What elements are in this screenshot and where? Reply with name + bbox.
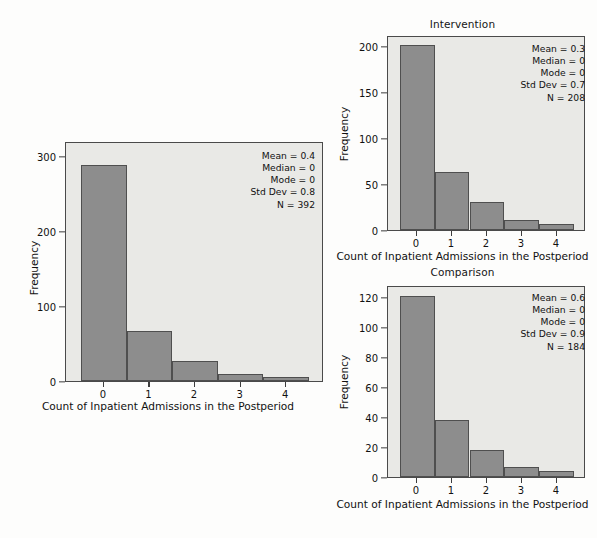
stats-annotation-intervention: Mean = 0.3 Median = 0 Mode = 0 Std Dev =… — [520, 43, 585, 104]
bar — [127, 331, 173, 381]
chart-title-comparison: Comparison — [330, 266, 595, 278]
histogram-comparison: Comparison Frequency 0204060801001200123… — [330, 266, 595, 516]
histogram-intervention: Intervention Frequency 05010015020001234… — [330, 18, 595, 268]
stat-median: Median = 0 — [520, 304, 585, 316]
y-tick-label: 100 — [330, 134, 378, 145]
y-tick-label: 150 — [330, 88, 378, 99]
x-tick-mark — [556, 478, 557, 483]
stat-n: N = 184 — [520, 341, 585, 353]
x-tick-mark — [556, 231, 557, 236]
stat-mean: Mean = 0.3 — [520, 43, 585, 55]
y-tick-label: 100 — [330, 323, 378, 334]
x-tick-label: 3 — [236, 389, 242, 400]
x-tick-mark — [451, 231, 452, 236]
stat-n: N = 208 — [520, 92, 585, 104]
bar — [400, 45, 435, 230]
x-tick-label: 0 — [413, 485, 419, 496]
stat-std-dev: Std Dev = 0.7 — [520, 79, 585, 91]
x-tick-label: 2 — [483, 238, 489, 249]
y-tick-label: 40 — [330, 413, 378, 424]
y-tick-label: 0 — [8, 377, 56, 388]
bar — [435, 420, 470, 477]
y-tick-label: 120 — [330, 293, 378, 304]
stat-median: Median = 0 — [520, 55, 585, 67]
figure-canvas: Frequency 010020030001234 Mean = 0.4 Med… — [0, 0, 597, 538]
stat-mode: Mode = 0 — [250, 174, 315, 186]
x-tick-label: 1 — [448, 238, 454, 249]
bar — [400, 296, 435, 478]
x-tick-label: 0 — [413, 238, 419, 249]
bar — [539, 471, 574, 477]
x-axis-label-total: Count of Inpatient Admissions in the Pos… — [8, 400, 328, 412]
stat-mode: Mode = 0 — [520, 316, 585, 328]
x-tick-mark — [148, 382, 149, 387]
stat-median: Median = 0 — [250, 162, 315, 174]
x-tick-mark — [521, 478, 522, 483]
stats-annotation-comparison: Mean = 0.6 Median = 0 Mode = 0 Std Dev =… — [520, 292, 585, 353]
y-tick-label: 50 — [330, 180, 378, 191]
y-tick-label: 200 — [330, 42, 378, 53]
x-tick-mark — [486, 478, 487, 483]
stat-mean: Mean = 0.4 — [250, 150, 315, 162]
x-tick-label: 4 — [553, 238, 559, 249]
bar — [539, 224, 574, 230]
x-tick-mark — [194, 382, 195, 387]
bar — [435, 172, 470, 230]
y-tick-label: 300 — [8, 152, 56, 163]
x-tick-label: 4 — [282, 389, 288, 400]
stats-annotation-total: Mean = 0.4 Median = 0 Mode = 0 Std Dev =… — [250, 150, 315, 211]
y-tick-label: 20 — [330, 443, 378, 454]
stat-std-dev: Std Dev = 0.8 — [250, 186, 315, 198]
x-tick-label: 1 — [448, 485, 454, 496]
x-tick-mark — [240, 382, 241, 387]
y-tick-label: 80 — [330, 353, 378, 364]
stat-n: N = 392 — [250, 199, 315, 211]
x-tick-mark — [521, 231, 522, 236]
x-axis-label-comparison: Count of Inpatient Admissions in the Pos… — [330, 498, 595, 510]
stat-mean: Mean = 0.6 — [520, 292, 585, 304]
stat-std-dev: Std Dev = 0.9 — [520, 328, 585, 340]
x-tick-label: 3 — [518, 485, 524, 496]
x-tick-mark — [285, 382, 286, 387]
bar — [504, 467, 539, 478]
y-tick-label: 0 — [330, 226, 378, 237]
x-tick-label: 4 — [553, 485, 559, 496]
histogram-total: Frequency 010020030001234 Mean = 0.4 Med… — [8, 128, 328, 413]
x-tick-mark — [103, 382, 104, 387]
x-tick-label: 2 — [191, 389, 197, 400]
stat-mode: Mode = 0 — [520, 67, 585, 79]
x-tick-label: 2 — [483, 485, 489, 496]
bar — [504, 220, 539, 230]
y-tick-label: 200 — [8, 227, 56, 238]
x-tick-mark — [416, 478, 417, 483]
y-tick-label: 0 — [330, 473, 378, 484]
bar — [81, 165, 127, 381]
bar — [470, 450, 505, 477]
x-tick-label: 0 — [100, 389, 106, 400]
bar — [172, 361, 218, 381]
chart-title-intervention: Intervention — [330, 18, 595, 30]
x-tick-mark — [486, 231, 487, 236]
bar — [263, 377, 309, 381]
x-axis-label-intervention: Count of Inpatient Admissions in the Pos… — [330, 250, 595, 262]
bar — [218, 374, 264, 381]
y-tick-label: 60 — [330, 383, 378, 394]
x-tick-label: 3 — [518, 238, 524, 249]
x-tick-mark — [451, 478, 452, 483]
y-tick-label: 100 — [8, 302, 56, 313]
x-tick-mark — [416, 231, 417, 236]
y-axis-label-total: Frequency — [28, 228, 40, 308]
bar — [470, 202, 505, 230]
x-tick-label: 1 — [145, 389, 151, 400]
